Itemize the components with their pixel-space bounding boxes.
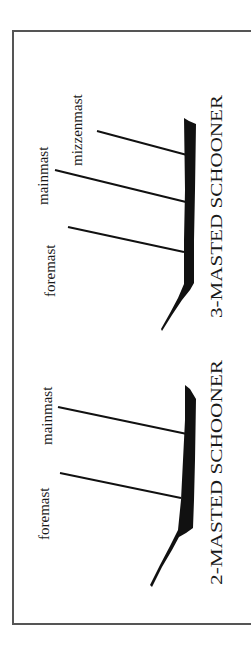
two-masted-title: 2-MASTED SCHOONER — [207, 359, 226, 585]
three-masted-schooner: mizzenmast mainmast foremast 3-MASTED SC… — [35, 94, 226, 331]
two-masted-mainmast-line — [58, 407, 187, 434]
three-masted-mainmast-line — [55, 170, 186, 202]
three-masted-foremast-label: foremast — [42, 244, 58, 297]
three-masted-mizzenmast-line — [97, 131, 187, 155]
two-masted-mainmast-label: mainmast — [39, 386, 55, 445]
two-masted-foremast-line — [60, 473, 181, 498]
three-masted-mainmast-label: mainmast — [35, 146, 51, 205]
two-masted-hull — [150, 385, 196, 587]
two-masted-foremast-label: foremast — [36, 487, 52, 540]
three-masted-mizzenmast-label: mizzenmast — [69, 94, 85, 166]
schooner-diagram: mizzenmast mainmast foremast 3-MASTED SC… — [0, 0, 251, 654]
two-masted-schooner: mainmast foremast 2-MASTED SCHOONER — [36, 359, 226, 587]
three-masted-foremast-line — [68, 227, 184, 252]
three-masted-title: 3-MASTED SCHOONER — [207, 94, 226, 318]
